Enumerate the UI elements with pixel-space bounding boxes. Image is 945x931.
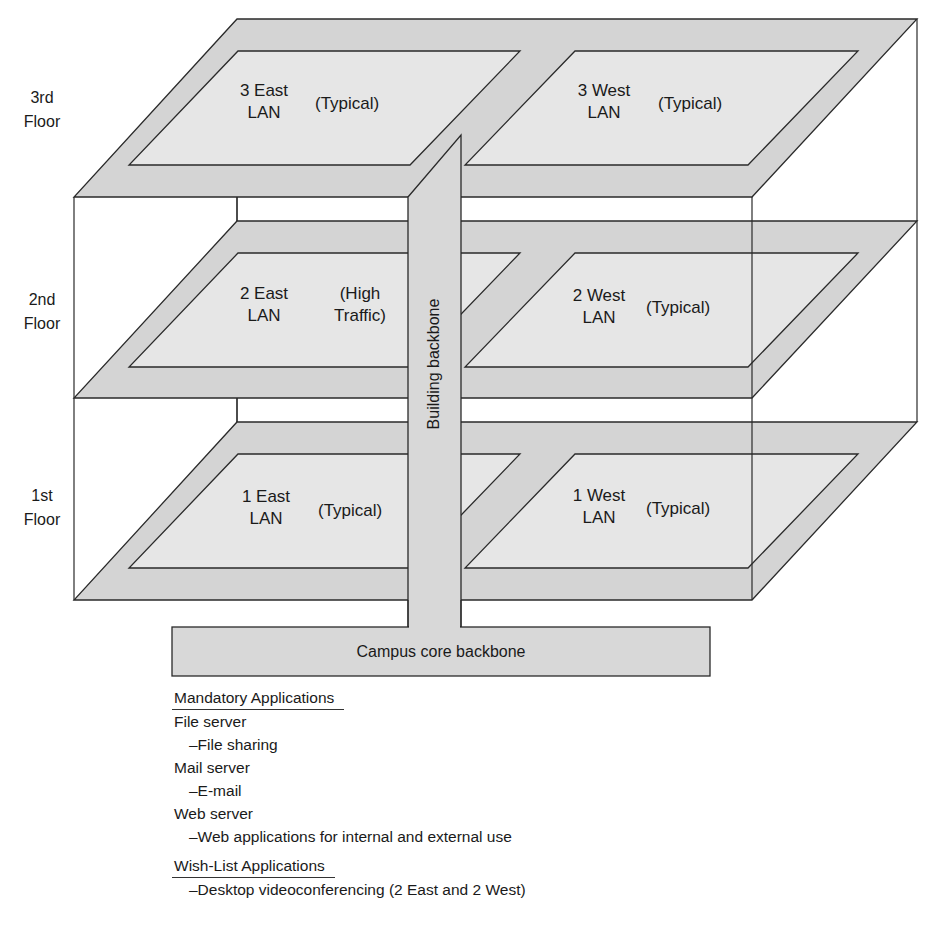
wishlist-heading: Wish-List Applications xyxy=(172,854,335,878)
lan-name: LAN xyxy=(565,507,633,529)
floor-label-line: Floor xyxy=(12,508,72,532)
lan-2-west-label: 2 West LAN xyxy=(565,285,633,329)
traffic-label: (High xyxy=(326,283,394,305)
floor-label-line: 3rd xyxy=(12,86,72,110)
lan-1-west-label: 1 West LAN xyxy=(565,485,633,529)
floor-label-1: 1st Floor xyxy=(12,484,72,532)
traffic-label: (Typical) xyxy=(658,93,722,115)
mandatory-applications: Mandatory Applications File server –File… xyxy=(174,686,526,901)
app-server: Web server xyxy=(174,802,526,825)
floor-label-2: 2nd Floor xyxy=(12,288,72,336)
floor-label-line: 2nd xyxy=(12,288,72,312)
floor-label-line: Floor xyxy=(12,110,72,134)
lan-name: 3 East xyxy=(234,80,294,102)
lan-name: LAN xyxy=(234,102,294,124)
lan-name: LAN xyxy=(236,508,296,530)
traffic-label: (Typical) xyxy=(646,297,710,319)
lan-3-east-label: 3 East LAN xyxy=(234,80,294,124)
lan-2-east-traffic: (High Traffic) xyxy=(326,283,394,327)
lan-2-east-label: 2 East LAN xyxy=(234,283,294,327)
app-use: –File sharing xyxy=(174,733,526,756)
app-use: –Desktop videoconferencing (2 East and 2… xyxy=(174,878,526,901)
app-server: File server xyxy=(174,710,526,733)
lan-3-east-traffic: (Typical) xyxy=(315,93,379,115)
campus-backbone-text: Campus core backbone xyxy=(357,643,526,661)
app-server: Mail server xyxy=(174,756,526,779)
lan-name: LAN xyxy=(570,102,638,124)
campus-backbone-label: Campus core backbone xyxy=(172,627,710,676)
traffic-label: Traffic) xyxy=(326,305,394,327)
lan-name: LAN xyxy=(565,307,633,329)
lan-name: 1 East xyxy=(236,486,296,508)
traffic-label: (Typical) xyxy=(318,500,382,522)
app-use: –E-mail xyxy=(174,779,526,802)
mandatory-heading: Mandatory Applications xyxy=(172,686,344,710)
lan-3-west-label: 3 West LAN xyxy=(570,80,638,124)
building-backbone-label: Building backbone xyxy=(425,299,443,430)
lan-1-east-traffic: (Typical) xyxy=(318,500,382,522)
app-use: –Web applications for internal and exter… xyxy=(174,825,526,848)
floor-label-3: 3rd Floor xyxy=(12,86,72,134)
lan-1-east-label: 1 East LAN xyxy=(236,486,296,530)
lan-name: LAN xyxy=(234,305,294,327)
floor-label-line: 1st xyxy=(12,484,72,508)
floor-1-plate xyxy=(74,422,917,600)
floor-label-line: Floor xyxy=(12,312,72,336)
lan-1-west-traffic: (Typical) xyxy=(646,498,710,520)
traffic-label: (Typical) xyxy=(646,498,710,520)
lan-name: 2 West xyxy=(565,285,633,307)
lan-name: 1 West xyxy=(565,485,633,507)
lan-2-west-traffic: (Typical) xyxy=(646,297,710,319)
lan-3-west-traffic: (Typical) xyxy=(658,93,722,115)
floor-2-plate xyxy=(74,221,917,422)
lan-name: 2 East xyxy=(234,283,294,305)
floor-3-plate xyxy=(74,19,917,197)
traffic-label: (Typical) xyxy=(315,93,379,115)
lan-name: 3 West xyxy=(570,80,638,102)
